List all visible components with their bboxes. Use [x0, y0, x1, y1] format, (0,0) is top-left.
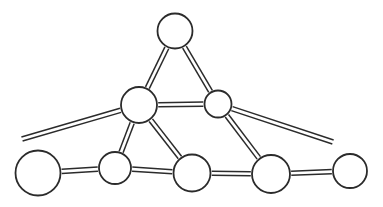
graph-edge	[183, 46, 213, 92]
graph-edge	[119, 122, 134, 152]
edge-rail	[132, 167, 172, 170]
edge-layer	[21, 46, 333, 176]
graph-node[interactable]	[16, 151, 61, 196]
edge-rail	[146, 47, 165, 87]
graph-node[interactable]	[205, 91, 232, 118]
edge-rail	[149, 49, 168, 89]
edge-rail	[158, 106, 203, 107]
edge-rail	[291, 174, 332, 176]
graph-diagram	[0, 0, 383, 207]
graph-edge	[21, 108, 121, 141]
graph-node[interactable]	[121, 87, 157, 123]
graph-edge	[149, 119, 181, 159]
edge-rail	[152, 119, 181, 156]
diagram-canvas	[0, 0, 383, 207]
edge-rail	[291, 170, 332, 172]
graph-node[interactable]	[174, 155, 211, 192]
graph-node[interactable]	[252, 155, 290, 193]
edge-rail	[233, 107, 334, 140]
graph-edge	[146, 47, 169, 89]
edge-rail	[225, 117, 257, 159]
edge-rail	[149, 121, 178, 158]
edge-rail	[62, 171, 98, 173]
edge-rail	[23, 112, 122, 141]
edge-rail	[186, 46, 212, 90]
graph-edge	[62, 167, 98, 174]
graph-edge	[212, 171, 251, 176]
edge-rail	[132, 171, 172, 174]
graph-edge	[225, 114, 260, 159]
edge-rail	[62, 167, 98, 169]
graph-edge	[132, 167, 172, 174]
edge-rail	[229, 114, 261, 156]
graph-node[interactable]	[158, 14, 193, 49]
graph-edge	[291, 170, 332, 176]
edge-rail	[183, 48, 209, 92]
graph-edge	[158, 102, 203, 107]
graph-node[interactable]	[333, 154, 367, 188]
graph-node[interactable]	[99, 152, 131, 184]
edge-rail	[158, 102, 203, 103]
edge-rail	[21, 108, 120, 137]
